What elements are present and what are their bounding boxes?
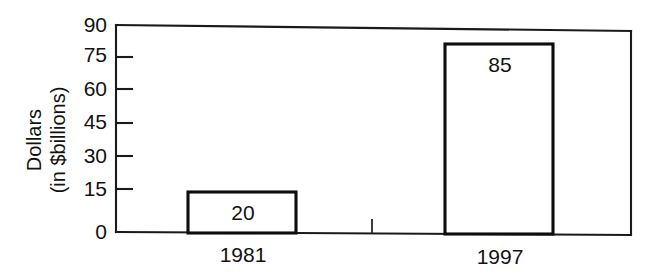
x-tick-labels: 1981 1997 bbox=[220, 243, 524, 268]
y-axis-title-line-2: (in $billions) bbox=[47, 87, 69, 194]
bar-value-label-1981: 20 bbox=[231, 201, 254, 224]
y-tick-label-45: 45 bbox=[84, 110, 107, 133]
bar-value-label-1997: 85 bbox=[488, 53, 511, 76]
y-axis-title: Dollars (in $billions) bbox=[23, 87, 69, 194]
y-tick-labels: 0 15 30 45 60 75 90 bbox=[84, 13, 107, 243]
y-tick-label-30: 30 bbox=[84, 144, 107, 167]
y-tick-label-75: 75 bbox=[84, 43, 107, 66]
y-tick-label-60: 60 bbox=[84, 77, 107, 100]
y-tick-label-90: 90 bbox=[84, 13, 107, 36]
y-axis-title-line-1: Dollars bbox=[23, 109, 45, 171]
y-tick-label-15: 15 bbox=[84, 177, 107, 200]
y-tick-marks bbox=[116, 57, 133, 189]
chart-canvas: Dollars (in $billions) 0 15 30 45 60 75 … bbox=[0, 0, 656, 277]
x-tick-label-1981: 1981 bbox=[220, 243, 267, 266]
bar-chart: Dollars (in $billions) 0 15 30 45 60 75 … bbox=[0, 0, 656, 277]
plot-top-border bbox=[116, 25, 631, 31]
y-tick-label-0: 0 bbox=[95, 220, 107, 243]
x-tick-label-1997: 1997 bbox=[477, 245, 524, 268]
